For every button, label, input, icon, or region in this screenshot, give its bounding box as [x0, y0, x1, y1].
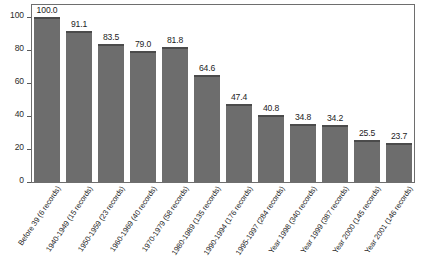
bar	[194, 75, 220, 182]
y-axis-tick-label: 0	[19, 176, 24, 185]
y-axis-tick-label: 40	[15, 110, 24, 119]
bar	[34, 17, 60, 182]
bar-group: 64.6	[194, 3, 220, 182]
bar-value-label: 91.1	[71, 20, 87, 29]
bar	[162, 47, 188, 182]
bar	[226, 104, 252, 182]
bar	[98, 44, 124, 182]
x-axis-labels: Before 39 (6 records)1940-1949 (15 recor…	[31, 183, 415, 272]
bar-value-label: 81.8	[167, 36, 183, 45]
bar-group: 83.5	[98, 3, 124, 182]
bar-group: 40.8	[258, 3, 284, 182]
bar-value-label: 25.5	[359, 129, 375, 138]
y-axis-tick-label: 60	[15, 77, 24, 86]
bar	[290, 124, 316, 182]
y-axis-tick-label: 20	[15, 143, 24, 152]
bars-layer: 100.091.183.579.081.864.647.440.834.834.…	[31, 4, 415, 183]
bar-group: 25.5	[354, 3, 380, 182]
bar-group: 23.7	[386, 3, 412, 182]
bar-group: 34.8	[290, 3, 316, 182]
bar	[354, 140, 380, 182]
bar-value-label: 83.5	[103, 33, 119, 42]
bar-group: 47.4	[226, 3, 252, 182]
bar-chart: 020406080100 100.091.183.579.081.864.647…	[0, 0, 425, 272]
bar	[66, 31, 92, 182]
bar-value-label: 100.0	[37, 6, 58, 15]
bar-value-label: 23.7	[391, 132, 407, 141]
y-axis-tick-label: 100	[10, 11, 24, 20]
bar-value-label: 34.8	[295, 113, 311, 122]
bar-value-label: 40.8	[263, 104, 279, 113]
y-axis-tick-label: 80	[15, 44, 24, 53]
bar-value-label: 34.2	[327, 114, 343, 123]
bar-value-label: 47.4	[231, 93, 247, 102]
bar-group: 34.2	[322, 3, 348, 182]
bar-group: 100.0	[34, 3, 60, 182]
bar-value-label: 79.0	[135, 40, 151, 49]
bar	[130, 51, 156, 182]
bar	[322, 125, 348, 182]
bar-group: 81.8	[162, 3, 188, 182]
y-axis: 020406080100	[0, 4, 31, 183]
bar	[258, 115, 284, 182]
bar-group: 91.1	[66, 3, 92, 182]
bar-value-label: 64.6	[199, 64, 215, 73]
bar	[386, 143, 412, 182]
bar-group: 79.0	[130, 3, 156, 182]
